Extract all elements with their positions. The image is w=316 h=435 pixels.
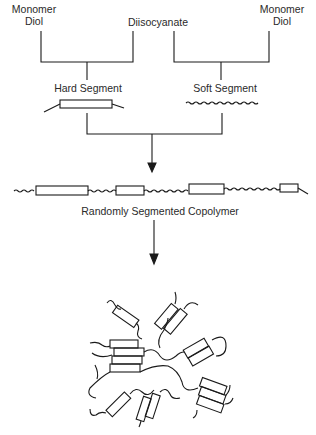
phase-separated-morphology-icon <box>89 292 233 427</box>
hard-segment-icon <box>44 100 124 112</box>
merge-bracket <box>87 113 222 172</box>
diagram-canvas <box>0 0 316 435</box>
left-join-bracket <box>41 31 133 80</box>
copolymer-chain-icon <box>14 184 308 195</box>
down-arrow-icon <box>150 220 158 264</box>
right-join-bracket <box>174 31 269 80</box>
soft-segment-icon <box>186 102 258 104</box>
